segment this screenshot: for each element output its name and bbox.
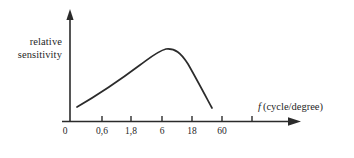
x-tick-label-4: 18 (187, 126, 197, 136)
x-tick-label-5: 60 (217, 126, 227, 136)
sensitivity-curve (77, 49, 212, 108)
x-axis (62, 117, 301, 126)
x-tick-label-3: 6 (160, 126, 165, 136)
x-axis-title: f(cycle/degree) (258, 101, 323, 112)
y-axis (66, 9, 73, 122)
y-axis-label-line1: relative (4, 36, 62, 49)
x-tick-label-2: 1,8 (125, 126, 137, 136)
y-axis-label-line2: sensitivity (4, 49, 62, 62)
x-axis-unit: (cycle/degree) (263, 101, 323, 112)
x-tick-label-0: 0 (63, 126, 68, 136)
plot-canvas (0, 0, 354, 158)
contrast-sensitivity-figure: relative sensitivity f(cycle/degree) 0 0… (0, 0, 354, 158)
y-axis-label: relative sensitivity (4, 36, 62, 61)
x-tick-label-1: 0,6 (96, 126, 108, 136)
